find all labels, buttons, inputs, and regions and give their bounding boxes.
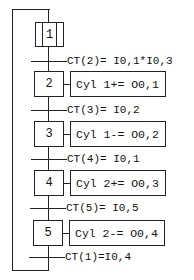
step-4: 4 [34,170,64,196]
step-5: 5 [33,220,63,246]
loop-top-line [12,9,50,10]
transition-1-label: CT(1)=I0,4 [65,251,131,263]
step-4-action: Cyl 2+= O0,3 [70,170,166,196]
loop-left-line [12,9,13,271]
step-4-label: 4 [45,176,52,190]
step-3-label: 3 [45,127,52,141]
transition-5-bar [30,208,66,209]
step-5-action: Cyl 2-= O0,4 [69,220,165,246]
step-5-label: 5 [44,226,51,240]
transition-4-bar [31,159,67,160]
step-1-initial: 1 [35,22,64,47]
loop-bottom-line [12,270,49,271]
transition-5-label: CT(5)= I0,5 [66,202,139,214]
transition-3-bar [31,110,67,111]
transition-3-label: CT(3)= I0,2 [67,104,140,116]
step-1-label: 1 [46,28,53,42]
step-2-action: Cyl 1+= O0,1 [70,71,166,97]
step-2: 2 [34,71,64,97]
step-3-action: Cyl 1-= O0,2 [70,121,166,147]
step-3: 3 [34,121,64,147]
step-2-label: 2 [45,77,52,91]
transition-4-label: CT(4)= I0,1 [67,153,140,165]
transition-2-bar [31,61,67,62]
transition-2-label: CT(2)= I0,1*I0,3 [67,55,173,67]
transition-1-bar [29,257,65,258]
